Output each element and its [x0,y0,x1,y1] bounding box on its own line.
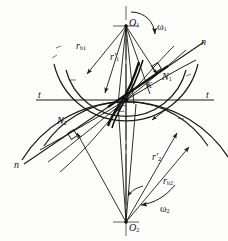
label-rb2: rb2 [163,176,173,186]
label-rp2: r′2 [152,152,161,162]
label-n-upper-right: n [201,37,206,47]
label-rb1: rb1 [76,41,86,51]
label-omega2: ω2 [160,204,170,214]
label-c: C [118,104,125,114]
diagram-canvas [0,0,228,241]
radius-arrow-rb1 [87,26,126,74]
label-n2: N2 [57,116,67,126]
label-o2: O2 [129,223,139,233]
center-point-o2-marker [124,220,128,224]
pitch-circle-arc-2 [22,102,228,160]
tooth-profile-heavy [108,60,143,128]
gear-meshing-diagram: O1 ω1 rb1 r′1 n N1 K t t C N2 n r′2 rb2 … [0,0,228,241]
label-omega1: ω1 [157,22,167,32]
label-n1: N1 [162,72,172,82]
label-k: K [146,81,152,90]
label-rp1: r′1 [110,52,119,62]
rotation-arrow-omega2 [141,185,175,205]
label-t-left: t [38,90,41,100]
label-t-right: t [206,90,209,100]
arc-construction-ticks-lower [58,118,184,122]
center-point-o1-marker [124,24,128,28]
radius-arrow-o2-n2 [77,133,126,222]
radial-lines-o2 [118,100,136,222]
label-o1: O1 [129,18,139,28]
angle-arrow-o2 [128,186,143,196]
pitch-point-marker [124,98,129,103]
label-n-lower-left: n [14,160,19,170]
